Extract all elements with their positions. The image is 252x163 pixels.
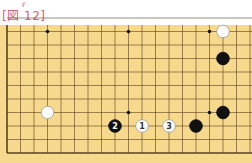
white-stone: [217, 25, 230, 38]
black-stone: [217, 106, 230, 119]
star-point: [208, 30, 212, 34]
move-number: 1: [139, 122, 145, 131]
move-number: 3: [166, 122, 172, 131]
go-board-grid: 213: [0, 0, 252, 163]
black-stone: [190, 120, 203, 133]
white-stone: [41, 106, 54, 119]
star-point: [127, 30, 131, 34]
black-stone: [217, 52, 230, 65]
move-number: 2: [112, 122, 118, 131]
star-point: [208, 111, 212, 115]
star-point: [46, 30, 50, 34]
star-point: [127, 111, 131, 115]
